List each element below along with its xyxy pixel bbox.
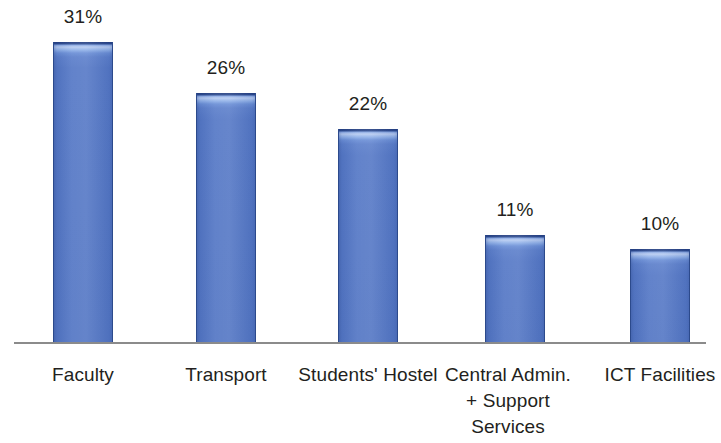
bar-ict-facilities-category-line: ICT Facilities [585,362,721,388]
bar-central-admin-category-line: Services [428,414,588,440]
bar-students-hostel-rect[interactable] [338,129,398,344]
bar-central-admin-category-label: Central Admin.+ SupportServices [428,362,588,440]
bar-students-hostel-category-label: Students' Hostel [288,362,448,388]
bar-central-admin-rect[interactable] [485,235,545,344]
bar-faculty-category-label: Faculty [23,362,143,388]
bar-central-admin-value-label: 11% [455,199,575,221]
bar-ict-facilities-value-label: 10% [600,213,720,235]
bar-students-hostel-value-label: 22% [308,93,428,115]
bar-faculty-rect[interactable] [53,42,113,344]
bar-transport-value-label: 26% [166,57,286,79]
bar-ict-facilities-rect[interactable] [630,249,690,344]
bar-central-admin-category-line: + Support [428,388,588,414]
bar-transport-rect[interactable] [196,93,256,344]
bar-ict-facilities-category-label: ICT Facilities [585,362,721,388]
bar-transport-category-line: Transport [166,362,286,388]
plot-area: 31%26%22%11%10% [0,0,721,344]
category-axis-line [14,342,706,344]
bar-faculty-value-label: 31% [23,6,143,28]
bar-chart: 31%26%22%11%10% FacultyTransportStudents… [0,0,721,443]
bar-faculty-category-line: Faculty [23,362,143,388]
bar-students-hostel-category-line: Students' Hostel [288,362,448,388]
bar-central-admin-category-line: Central Admin. [428,362,588,388]
category-axis-labels: FacultyTransportStudents' HostelCentral … [0,352,721,443]
bar-transport-category-label: Transport [166,362,286,388]
